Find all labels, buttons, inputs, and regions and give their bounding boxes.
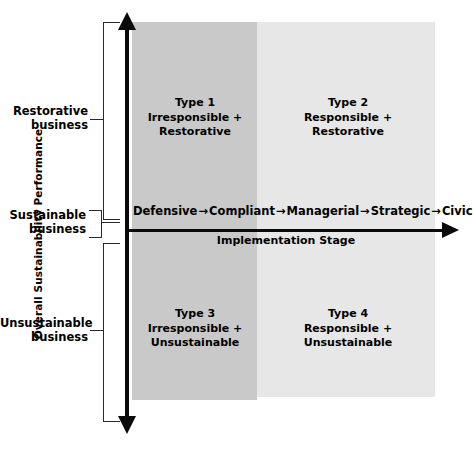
stage-strategic: Strategic (371, 204, 431, 218)
stage-arrow-icon-2: → (275, 204, 287, 218)
quadrant-type-1-line2: Irresponsible + (133, 111, 257, 126)
stage-defensive: Defensive (133, 204, 197, 218)
bracket-unsustainable-range (103, 243, 120, 422)
stage-arrow-icon-1: → (197, 204, 209, 218)
x-axis-title: Implementation Stage (127, 234, 445, 247)
tick-restorative (90, 119, 104, 120)
tick-unsustainable (90, 330, 104, 331)
y-axis-label-restorative-line1: Restorative (13, 104, 88, 118)
quadrant-type-4-title: Type 4 (262, 307, 434, 322)
quadrant-type-4-line3: Unsustainable (262, 336, 434, 351)
bracket-restorative-range (103, 22, 120, 220)
vertical-axis-up-arrow-icon (118, 12, 136, 30)
quadrant-type-3-line3: Unsustainable (133, 336, 257, 351)
quadrant-type-2-title: Type 2 (262, 96, 434, 111)
quadrant-type-3-line2: Irresponsible + (133, 322, 257, 337)
stage-compliant: Compliant (209, 204, 275, 218)
bracket-sustainable-range (89, 210, 102, 238)
y-axis-label-sustainable-line2: business (29, 222, 86, 236)
y-axis-label-unsustainable-line1: Unsustainable (0, 316, 93, 330)
y-axis-label-unsustainable: Unsustainable business (0, 316, 88, 345)
stage-civic: Civic (442, 204, 473, 218)
y-axis-label-restorative-line2: business (31, 118, 88, 132)
stage-managerial: Managerial (287, 204, 360, 218)
stage-arrow-icon-4: → (430, 204, 442, 218)
quadrant-type-2-line2: Responsible + (262, 111, 434, 126)
vertical-axis-down-arrow-icon (118, 416, 136, 434)
y-axis-label-unsustainable-line2: business (31, 330, 88, 344)
quadrant-type-2-line3: Restorative (262, 125, 434, 140)
horizontal-axis-line (127, 229, 445, 232)
quadrant-type-3: Type 3 Irresponsible + Unsustainable (133, 307, 257, 351)
quadrant-type-3-title: Type 3 (133, 307, 257, 322)
quadrant-type-1-line3: Restorative (133, 125, 257, 140)
quadrant-type-4: Type 4 Responsible + Unsustainable (262, 307, 434, 351)
y-axis-label-restorative: Restorative business (0, 104, 88, 133)
quadrant-type-1-title: Type 1 (133, 96, 257, 111)
quadrant-type-2: Type 2 Responsible + Restorative (262, 96, 434, 140)
tick-sustainable (101, 222, 120, 223)
quadrant-type-4-line2: Responsible + (262, 322, 434, 337)
y-axis-label-sustainable-line1: Sustainable (10, 208, 86, 222)
stage-arrow-icon-3: → (359, 204, 371, 218)
implementation-stage-sequence: Defensive → Compliant → Managerial → Str… (133, 204, 439, 218)
y-axis-label-sustainable: Sustainable business (0, 208, 86, 237)
quadrant-type-1: Type 1 Irresponsible + Restorative (133, 96, 257, 140)
vertical-axis-line (125, 26, 129, 420)
